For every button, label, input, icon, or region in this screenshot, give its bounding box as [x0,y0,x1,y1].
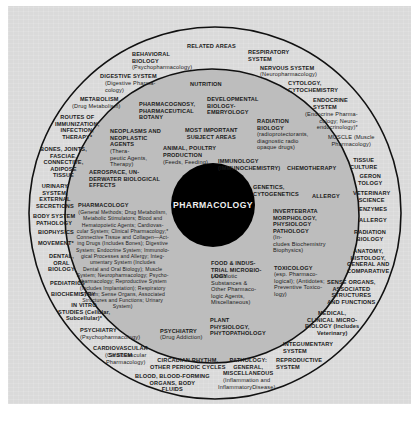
important-chemotherapy: CHEMOTHERAPY [287,165,336,172]
related-behavioral-biology-note: (Psychopharmacology) [132,64,192,71]
center-label: PHARMACOLOGY [171,163,255,247]
related-gerontology: GERON TOLOGY [358,173,382,186]
important-nutrition: NUTRITION [190,81,222,88]
related-routes-of-immunization: ROUTES OF IMMUNIZATION, INFECTION, THERA… [55,114,99,140]
related-movement: MOVEMENT* [38,240,74,247]
related-medical-microbiology: MEDICAL, CLINICAL MICRO- BIOLOGY (Includ… [305,310,359,336]
important-aerospace: AEROSPACE, UN- DERWATER BIOLOGICAL EFFEC… [89,169,160,189]
important-animal-poultry: ANIMAL, POULTRY PRODUCTION [163,145,216,158]
related-respiratory-system: RESPIRATORY SYSTEM [248,49,289,62]
related-sense-organs: SENSE ORGANS, ASSOCIATED STRUCTURES AND … [327,279,376,305]
important-plant-physiology: PLANT PHYSIOLOGY, PHYTOPATHOLOGY [210,317,266,337]
important-invertebrata-note: (In- cludes Biochemistry Biophysics) [273,234,326,254]
important-neoplasms: NEOPLASMS AND NEOPLASTIC AGENTS [110,128,161,148]
related-tissue-culture: TISSUE CULTURE [350,157,377,170]
related-pathology-general: PATHOLOGY: GENERAL, MISCELLANEOUS [223,357,273,377]
related-areas-title: RELATED AREAS [187,43,236,50]
related-digestive-system-note: (Digestive Pharma- cology) [105,80,156,93]
important-invertebrata: INVERTEBRATA MORPHOLOGY, PHYSIOLOGY PATH… [273,208,318,234]
important-areas-title: MOST IMPORTANT SUBJECT AREAS [185,127,238,140]
related-blood-forming-organs: BLOOD, BLOOD-FORMING ORGANS, BODY FLUIDS [135,373,210,393]
related-enzymes: ENZYMES [359,206,387,213]
related-integumentary-system: INTEGUMENTARY SYSTEM [283,341,333,354]
important-animal-poultry-note: (Feeds, Feeding) [163,159,208,166]
related-metabolism-note: (Drug Metabolism) [72,103,121,110]
important-genetics: GENETICS, CYTOGENETICS [253,184,299,197]
important-immunology: IMMUNOLOGY (IMMUNOCHEMISTRY) [218,158,280,171]
related-pathology-general-note: (Inflammation and InflammatoryDisease) [218,377,275,390]
important-radiation-biology: RADIATION BIOLOGY [257,118,289,131]
important-developmental-biology: DEVELOPMENTAL BIOLOGY- EMBRYOLOGY [207,96,259,116]
important-psychiatry-note: (Drug Addiction) [160,334,203,341]
related-dental-oral-biology: DENTAL, ORAL BIOLOGY [48,253,75,273]
related-cytology: CYTOLOGY, CYTOCHEMISTRY [288,80,338,93]
important-neoplasms-note: (Thera- peutic Agents, Therapy) [110,148,147,168]
related-biophysics: BIOPHYSICS [38,229,74,236]
important-pharmacology: PHARMACOLOGY [78,202,129,209]
related-muscle: MUSCLE (Muscle Pharmacology) [328,134,375,147]
related-bones-joints: BONES, JOINTS, FASCIAE, CONNECTIVE, ADIP… [40,146,87,179]
important-toxicology-note: (esp. Pharmaco- logical); (Antidotes; Pr… [274,271,325,297]
related-anatomy-histology: ANATOMY, HISTOLOGY, GENERAL AND COMPARAT… [347,248,389,274]
related-urinary-system: URINARY SYSTEM, EXTERNAL SECRETIONS [36,183,74,209]
important-allergy: ALLERGY [312,193,340,200]
related-body-system-pathology: BODY SYSTEM PATHOLOGY [33,213,75,226]
related-allergy: ALLERGY [359,217,387,224]
related-psychiatry: PSYCHIATRY [80,327,117,334]
related-veterinary-science: VETERINARY SCIENCE [353,190,390,203]
related-reproductive-system: REPRODUCTIVE SYSTEM [276,357,322,370]
related-endocrine-system: ENDOCRINE SYSTEM [313,97,348,110]
related-digestive-system: DIGESTIVE SYSTEM [100,73,157,80]
related-endocrine-system-note: (Endocrine Pharma- cology; Neuro- endocr… [305,111,358,131]
related-cardiovascular-system-note: (Cardiovascular Pharmacology) [105,352,146,365]
related-radiation-biology: RADIATION BIOLOGY [354,229,386,242]
related-behavioral-biology: BEHAVIORAL BIOLOGY [132,51,170,64]
important-radiation-biology-note: (radioprotectorants, diagnostic radio op… [257,131,309,151]
related-psychiatry-note: (Psychopharmacology) [80,334,140,341]
important-pharmacology-note: (General Methods; Drug Metabolism, Metab… [76,209,169,310]
related-nervous-system-note: (Neuropharmacology) [260,71,317,78]
important-food-industrial-microbiology-note: (Antibiotic Substances & Other Pharmaco-… [211,273,256,306]
related-metabolism: METABOLISM [80,96,119,103]
important-pharmacognosy: PHARMACOGNOSY, PHARMACEUTICAL BOTANY [139,101,195,121]
related-circadian-rhythm: CIRCADIAN RHYTHM, OTHER PERIODIC CYCLES [150,357,226,370]
